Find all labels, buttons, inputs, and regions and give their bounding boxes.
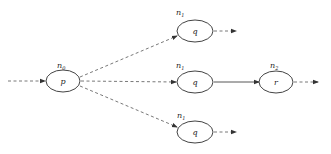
node-p-label: p	[60, 77, 65, 86]
node-q-mid-label: q	[192, 78, 197, 87]
edge-p-to-q-top	[80, 36, 177, 77]
node-q-bottom-annotation: n1	[177, 111, 185, 121]
node-p-annotation: n0	[57, 61, 66, 71]
process-graph-diagram: p n0 q n1 q n1 r n2 q n1	[0, 0, 331, 154]
node-q-mid: q n1	[176, 61, 213, 93]
node-r: r n2	[259, 61, 293, 93]
edge-p-to-q-mid	[81, 81, 176, 82]
node-p: p n0	[46, 61, 80, 92]
node-q-bottom: q n1	[177, 111, 213, 143]
edge-p-to-q-bot	[80, 86, 177, 127]
node-q-top-annotation: n1	[176, 8, 184, 18]
node-q-mid-annotation: n1	[176, 61, 184, 71]
node-r-annotation: n2	[270, 61, 278, 71]
node-q-bottom-label: q	[192, 128, 197, 137]
node-q-top: q n1	[176, 8, 213, 42]
node-q-top-label: q	[192, 27, 197, 36]
